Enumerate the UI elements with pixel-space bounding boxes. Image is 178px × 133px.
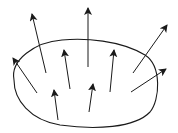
arrow-6-icon [89,84,93,112]
arrow-7-icon [110,50,114,92]
arrow-5-icon [54,90,58,120]
closed-surface-curve [14,39,158,127]
arrow-8-icon [133,25,167,73]
arrow-1-icon [13,58,37,93]
vector-field-diagram [0,0,178,133]
arrow-9-icon [131,69,166,92]
vector-arrows [13,8,167,120]
arrow-3-icon [64,50,70,89]
